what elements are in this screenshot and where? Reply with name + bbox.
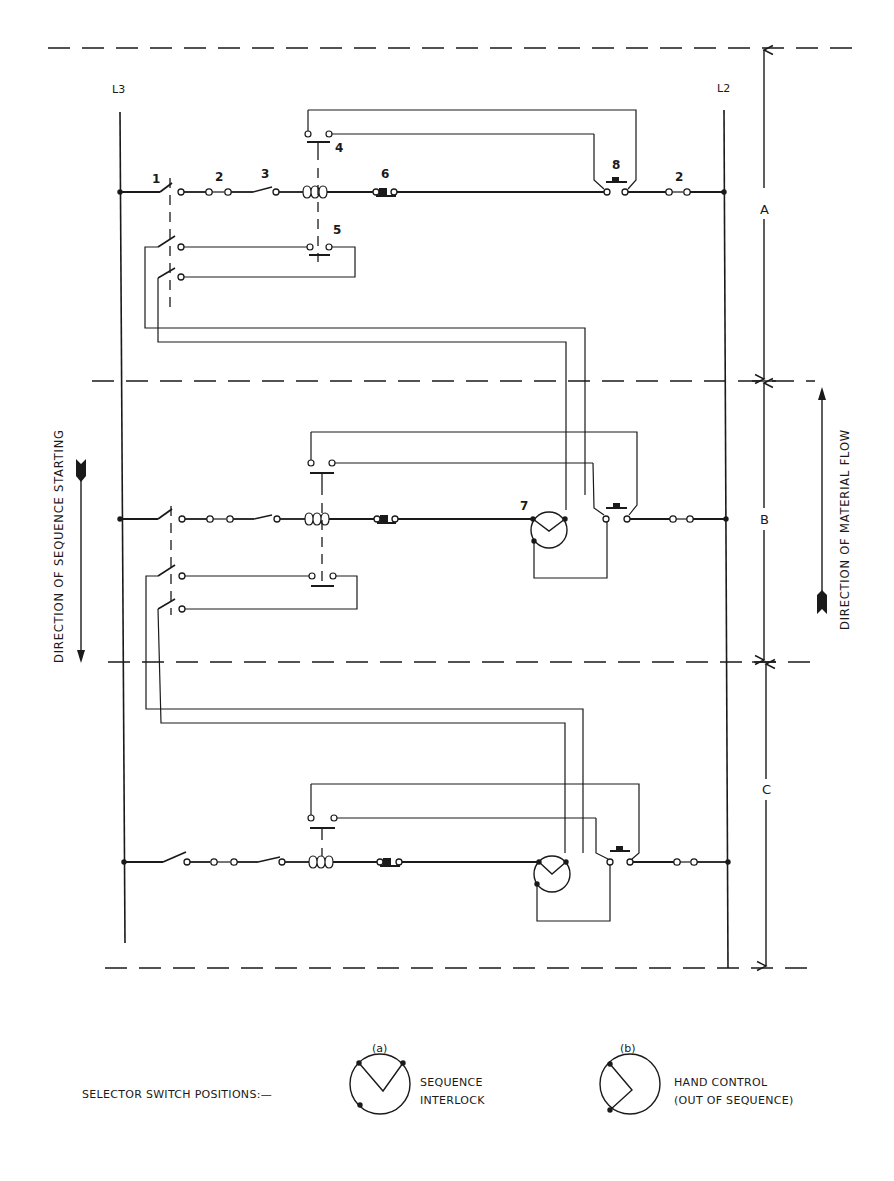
legend-desc-b: HAND CONTROL (OUT OF SEQUENCE) [674, 1074, 794, 1110]
section-c-wiring [308, 784, 639, 921]
rail-label-l2: L2 [717, 82, 730, 95]
component-3-label: 3 [261, 167, 269, 181]
legend-desc-a-line1: SEQUENCE [420, 1074, 485, 1092]
legend-desc-a-line2: INTERLOCK [420, 1092, 485, 1110]
legend-desc-b-line1: HAND CONTROL [674, 1074, 794, 1092]
legend-desc-b-line2: (OUT OF SEQUENCE) [674, 1092, 794, 1110]
legend-title: SELECTOR SWITCH POSITIONS:— [82, 1088, 272, 1101]
rung-b [118, 503, 728, 615]
selector-hand-control-icon [600, 1054, 660, 1114]
component-1-label: 1 [152, 172, 160, 186]
material-flow-arrow [817, 387, 827, 614]
power-rails [120, 110, 728, 968]
rail-label-l3: L3 [112, 83, 125, 96]
sequence-starting-label: DIRECTION OF SEQUENCE STARTING [52, 429, 66, 663]
component-2-label: 2 [215, 170, 223, 184]
component-7-label: 7 [520, 499, 528, 513]
section-b-wiring [146, 432, 637, 853]
legend-desc-a: SEQUENCE INTERLOCK [420, 1074, 485, 1110]
section-dimension-line [752, 50, 776, 966]
component-4-label: 4 [335, 141, 343, 155]
selector-sequence-interlock-icon [350, 1054, 410, 1114]
section-label-a: A [760, 200, 769, 219]
ladder-diagram [0, 0, 894, 1181]
section-label-c: C [762, 780, 771, 799]
legend-tag-a: (a) [372, 1042, 387, 1055]
component-5-label: 5 [333, 223, 341, 237]
section-label-b: B [760, 510, 769, 529]
component-6-label: 6 [381, 167, 389, 181]
material-flow-label: DIRECTION OF MATERIAL FLOW [838, 429, 852, 630]
component-8-label: 8 [612, 158, 620, 172]
sequence-starting-arrow [76, 459, 86, 663]
rung-a [118, 177, 726, 310]
legend-tag-b: (b) [620, 1042, 636, 1055]
component-2b-label: 2 [675, 170, 683, 184]
